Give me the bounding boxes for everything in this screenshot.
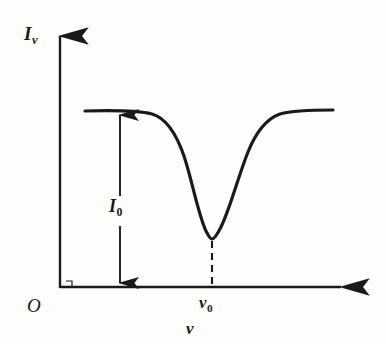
nu0-tick-label: ν0 bbox=[199, 294, 213, 314]
y-axis-label: Iν bbox=[24, 24, 37, 47]
i0-label-subscript: 0 bbox=[116, 205, 122, 219]
origin-label: O bbox=[27, 296, 41, 315]
absorption-profile-plot bbox=[0, 0, 386, 344]
nu0-label-symbol: ν bbox=[199, 293, 207, 312]
x-axis-label: ν bbox=[186, 320, 194, 337]
i0-annotation-label: I0 bbox=[106, 196, 125, 220]
i0-label-symbol: I bbox=[109, 196, 116, 216]
spectral-line-figure: Iν O I0 ν0 ν bbox=[0, 0, 386, 344]
nu0-label-subscript: 0 bbox=[207, 302, 213, 314]
y-axis-label-subscript: ν bbox=[31, 33, 37, 47]
